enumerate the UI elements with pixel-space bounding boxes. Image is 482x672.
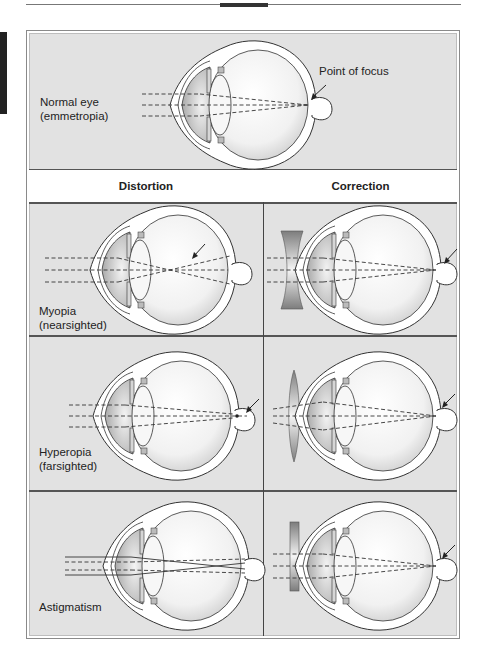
hyperopia-label: Hyperopia (farsighted) — [39, 445, 97, 473]
eye-icon — [103, 502, 265, 630]
focus-arrow-icon — [444, 249, 457, 264]
point-of-focus-label: Point of focus — [319, 64, 389, 78]
chapter-side-tab — [0, 32, 7, 114]
myopia-correction-diagram — [265, 204, 460, 334]
hyperopia-label-line2: (farsighted) — [39, 459, 97, 473]
hyperopia-label-line1: Hyperopia — [39, 445, 97, 459]
hyperopia-correction-diagram — [265, 350, 460, 485]
normal-eye-label-line2: (emmetropia) — [40, 109, 108, 123]
focus-arrow-icon — [246, 399, 259, 413]
normal-eye-label: Normal eye (emmetropia) — [40, 95, 108, 123]
astigmatism-distortion-diagram — [55, 500, 260, 635]
myopia-label: Myopia (nearsighted) — [39, 304, 107, 332]
myopia-label-line1: Myopia — [39, 304, 107, 318]
header-distortion: Distortion — [29, 170, 263, 202]
astigmatism-label: Astigmatism — [39, 600, 102, 614]
focus-arrow-icon — [442, 545, 455, 559]
myopia-label-line2: (nearsighted) — [39, 318, 107, 332]
astigmatism-label-line1: Astigmatism — [39, 600, 102, 614]
table-header-row: Distortion Correction — [29, 170, 457, 202]
focus-arrow-icon — [442, 394, 455, 408]
divider-hyperopia-astigmatism — [29, 490, 457, 492]
astigmatism-correction-diagram — [265, 500, 460, 635]
header-correction: Correction — [264, 170, 457, 202]
divider-myopia-hyperopia — [29, 335, 457, 337]
page-top-rule-marker — [220, 3, 268, 7]
normal-eye-label-line1: Normal eye — [40, 95, 108, 109]
normal-eye-diagram — [130, 42, 350, 167]
